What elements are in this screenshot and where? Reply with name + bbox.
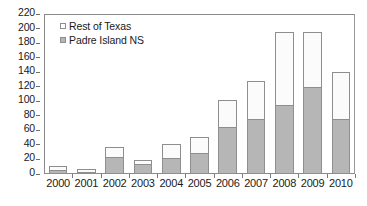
x-tick-label: 2003 bbox=[129, 177, 157, 190]
x-tick-mark bbox=[298, 174, 299, 178]
legend: Rest of Texas Padre Island NS bbox=[60, 19, 180, 47]
bar-segment-rest-of-texas[interactable] bbox=[247, 81, 266, 120]
legend-swatch-icon-padre-island-ns bbox=[60, 37, 66, 43]
y-tick-mark bbox=[36, 115, 40, 116]
x-tick-label: 2007 bbox=[242, 177, 270, 190]
x-tick-mark bbox=[355, 174, 356, 178]
x-tick-mark bbox=[327, 174, 328, 178]
stacked-bar-chart: 020406080100120140160180200220 200020012… bbox=[0, 0, 367, 206]
x-tick-mark bbox=[101, 174, 102, 178]
legend-label-padre-island-ns: Padre Island NS bbox=[69, 34, 144, 46]
y-tick-label: 100 bbox=[18, 94, 35, 105]
bar-segment-padre-island-ns[interactable] bbox=[275, 105, 294, 174]
x-tick-label: 2001 bbox=[72, 177, 100, 190]
y-tick-mark bbox=[36, 72, 40, 73]
legend-label-rest-of-texas: Rest of Texas bbox=[69, 20, 131, 32]
bar-group[interactable] bbox=[275, 31, 294, 174]
y-tick-label: 200 bbox=[18, 22, 35, 33]
legend-item-rest-of-texas: Rest of Texas bbox=[60, 19, 180, 32]
bar-group[interactable] bbox=[134, 159, 153, 174]
x-tick-mark bbox=[157, 174, 158, 178]
bar-group[interactable] bbox=[218, 99, 237, 174]
y-tick-mark bbox=[36, 86, 40, 87]
bar-group[interactable] bbox=[247, 80, 266, 174]
y-tick-label: 180 bbox=[18, 36, 35, 47]
bar-group[interactable] bbox=[162, 143, 181, 174]
bar-segment-padre-island-ns[interactable] bbox=[105, 157, 124, 174]
y-tick-label: 140 bbox=[18, 65, 35, 76]
y-tick-label: 60 bbox=[24, 123, 35, 134]
y-tick-mark bbox=[36, 101, 40, 102]
bar-segment-padre-island-ns[interactable] bbox=[332, 119, 351, 174]
bar-segment-padre-island-ns[interactable] bbox=[247, 119, 266, 174]
x-tick-mark bbox=[72, 174, 73, 178]
x-tick-label: 2008 bbox=[270, 177, 298, 190]
x-axis: 2000200120022003200420052006200720082009… bbox=[44, 177, 355, 195]
bar-segment-rest-of-texas[interactable] bbox=[105, 147, 124, 158]
x-tick-label: 2009 bbox=[298, 177, 326, 190]
bar-segment-rest-of-texas[interactable] bbox=[218, 100, 237, 128]
bar-segment-rest-of-texas[interactable] bbox=[134, 160, 153, 164]
y-tick-mark bbox=[36, 144, 40, 145]
x-tick-mark bbox=[129, 174, 130, 178]
bar-segment-rest-of-texas[interactable] bbox=[275, 32, 294, 106]
bar-segment-padre-island-ns[interactable] bbox=[134, 164, 153, 174]
y-tick-label: 0 bbox=[29, 167, 35, 178]
bar-group[interactable] bbox=[332, 71, 351, 174]
y-tick-label: 20 bbox=[24, 152, 35, 163]
legend-swatch-icon-rest-of-texas bbox=[60, 23, 66, 29]
y-tick-label: 220 bbox=[18, 7, 35, 18]
bar-group[interactable] bbox=[49, 165, 68, 174]
y-axis: 020406080100120140160180200220 bbox=[0, 14, 40, 174]
x-tick-label: 2010 bbox=[327, 177, 355, 190]
bar-group[interactable] bbox=[77, 168, 96, 174]
y-tick-mark bbox=[36, 130, 40, 131]
bar-segment-rest-of-texas[interactable] bbox=[49, 166, 68, 171]
bar-segment-rest-of-texas[interactable] bbox=[162, 144, 181, 159]
x-tick-label: 2006 bbox=[214, 177, 242, 190]
bar-group[interactable] bbox=[303, 31, 322, 174]
x-tick-label: 2005 bbox=[185, 177, 213, 190]
bar-segment-rest-of-texas[interactable] bbox=[77, 169, 96, 173]
y-tick-label: 40 bbox=[24, 138, 35, 149]
y-tick-label: 80 bbox=[24, 109, 35, 120]
bar-segment-padre-island-ns[interactable] bbox=[218, 127, 237, 174]
x-tick-label: 2002 bbox=[101, 177, 129, 190]
legend-item-padre-island-ns: Padre Island NS bbox=[60, 33, 180, 46]
x-tick-mark bbox=[185, 174, 186, 178]
y-tick-mark bbox=[36, 28, 40, 29]
y-tick-mark bbox=[36, 159, 40, 160]
bar-group[interactable] bbox=[105, 146, 124, 174]
bar-segment-rest-of-texas[interactable] bbox=[303, 32, 322, 88]
x-tick-mark bbox=[270, 174, 271, 178]
bar-group[interactable] bbox=[190, 136, 209, 174]
y-tick-label: 120 bbox=[18, 80, 35, 91]
x-tick-mark bbox=[214, 174, 215, 178]
y-tick-label: 160 bbox=[18, 51, 35, 62]
y-tick-mark bbox=[36, 174, 40, 175]
y-tick-mark bbox=[36, 43, 40, 44]
bar-segment-padre-island-ns[interactable] bbox=[303, 87, 322, 174]
bar-segment-rest-of-texas[interactable] bbox=[332, 72, 351, 119]
x-tick-label: 2000 bbox=[44, 177, 72, 190]
y-tick-mark bbox=[36, 57, 40, 58]
bar-segment-rest-of-texas[interactable] bbox=[190, 137, 209, 154]
bar-segment-padre-island-ns[interactable] bbox=[190, 153, 209, 174]
bar-segment-padre-island-ns[interactable] bbox=[162, 158, 181, 174]
x-tick-mark bbox=[242, 174, 243, 178]
x-tick-label: 2004 bbox=[157, 177, 185, 190]
y-tick-mark bbox=[36, 14, 40, 15]
